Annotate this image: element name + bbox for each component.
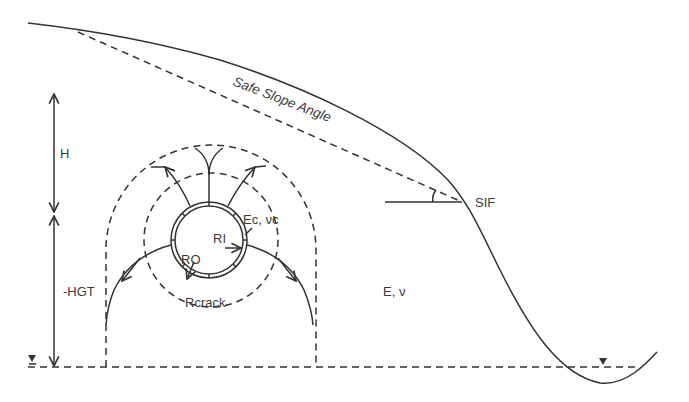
water-table-marker-right: [599, 358, 607, 365]
influence-zone-arch: [106, 145, 316, 367]
water-table-marker-left: [28, 355, 36, 362]
sif-label: SIF: [475, 195, 495, 210]
height-label: H: [60, 146, 69, 161]
ground-surface-curve: [28, 23, 657, 383]
soil-material-label: E, ν: [383, 284, 405, 299]
inner-radius-label: RI: [213, 231, 226, 246]
crack-zone-circle: [144, 173, 278, 307]
crack-radius-label: Rcrack: [185, 295, 226, 310]
depth-label: -HGT: [63, 284, 95, 299]
outer-radius-label: RO: [181, 252, 201, 267]
pipe-material-label: Ec, νc: [243, 212, 279, 227]
slope-pipe-diagram: Safe Slope Angle SIF H -HGT: [0, 0, 689, 402]
slope-angle-arc: [433, 190, 436, 202]
